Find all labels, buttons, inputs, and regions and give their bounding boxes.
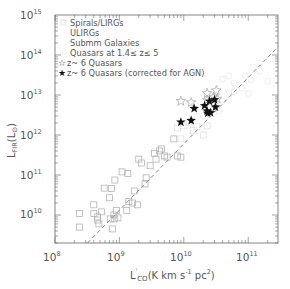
scatter-chart: 1015 1014 1013 1012 1011 1010 108 109 10… bbox=[0, 0, 290, 289]
circle-marker bbox=[265, 78, 271, 84]
square-marker bbox=[147, 163, 153, 169]
legend: Spirals/LIRGs ULIRGs Submm Galaxies Quas… bbox=[58, 18, 204, 78]
y-tick-1e12: 1012 bbox=[20, 128, 42, 141]
square-marker bbox=[76, 224, 82, 230]
circle-marker bbox=[242, 73, 248, 79]
x-tick-1e11: 1011 bbox=[236, 250, 258, 263]
circle-marker bbox=[248, 77, 254, 83]
square-marker bbox=[76, 210, 82, 216]
x-axis-title: L'CO(K km s-1 pc2) bbox=[130, 267, 215, 283]
square-marker bbox=[125, 170, 131, 176]
square-marker bbox=[109, 226, 115, 232]
legend-symbol-square bbox=[61, 20, 66, 25]
square-marker bbox=[112, 177, 118, 183]
square-marker bbox=[126, 198, 132, 204]
square-marker bbox=[119, 169, 125, 175]
y-tick-1e13: 1013 bbox=[20, 88, 42, 101]
square-marker bbox=[175, 125, 181, 131]
y-tick-labels: 1015 1014 1013 1012 1011 1010 bbox=[20, 8, 42, 220]
square-marker bbox=[91, 210, 97, 216]
square-marker bbox=[153, 156, 159, 162]
y-tick-1e11: 1011 bbox=[20, 168, 42, 181]
y-tick-1e10: 1010 bbox=[20, 207, 42, 220]
x-tick-labels: 108 109 1010 1011 bbox=[43, 250, 258, 263]
data-points bbox=[76, 64, 270, 232]
x-tick-1e8: 108 bbox=[43, 250, 61, 263]
open-star-icon: ☆ bbox=[58, 58, 66, 68]
legend-item-z6-quasars-corrected: z~ 6 Quasars (corrected for AGN) bbox=[67, 68, 204, 78]
legend-item-spirals: Spirals/LIRGs bbox=[70, 18, 124, 28]
legend-item-z6-quasars: z~ 6 Quasars bbox=[67, 58, 122, 68]
circle-marker bbox=[250, 64, 256, 70]
legend-item-quasars-mid-z: Quasars at 1.4≤ z≤ 5 bbox=[70, 48, 158, 58]
square-marker bbox=[194, 124, 200, 130]
filled-star-icon: ★ bbox=[58, 68, 66, 78]
square-marker bbox=[200, 132, 206, 138]
circle-marker bbox=[231, 80, 237, 86]
circle-marker bbox=[257, 68, 263, 74]
legend-symbol-circle bbox=[62, 51, 66, 55]
open-star-marker bbox=[176, 96, 186, 105]
legend-item-submm: Submm Galaxies bbox=[70, 38, 139, 48]
square-marker bbox=[91, 202, 97, 208]
square-marker bbox=[124, 207, 130, 213]
y-tick-1e15: 1015 bbox=[20, 8, 42, 21]
circle-marker bbox=[226, 73, 232, 79]
square-marker bbox=[204, 123, 210, 129]
circle-marker bbox=[220, 76, 226, 82]
x-tick-1e9: 109 bbox=[107, 250, 125, 263]
x-tick-1e10: 1010 bbox=[170, 250, 192, 263]
y-tick-1e14: 1014 bbox=[20, 48, 42, 61]
filled-star-marker bbox=[186, 116, 196, 125]
square-marker bbox=[178, 136, 184, 142]
square-marker bbox=[158, 146, 164, 152]
y-axis-title: LFIR(L⊙) bbox=[6, 123, 19, 158]
square-marker bbox=[106, 195, 112, 201]
square-marker bbox=[101, 185, 107, 191]
legend-item-ulirgs: ULIRGs bbox=[70, 28, 99, 38]
square-marker bbox=[131, 188, 137, 194]
square-marker bbox=[108, 186, 114, 192]
square-marker bbox=[171, 136, 177, 142]
circle-marker bbox=[245, 90, 251, 96]
